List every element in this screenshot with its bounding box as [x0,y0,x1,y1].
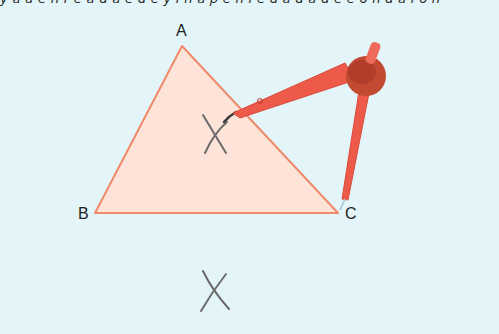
arc-mark-lower [201,271,229,311]
compass-needle-leg [342,85,370,200]
vertex-label-b: B [78,205,89,223]
compass-pencil-leg [233,63,355,118]
vertex-label-c: C [345,205,357,223]
triangle-abc [95,46,338,213]
vertex-label-a: A [176,22,187,40]
diagram-canvas [0,0,499,334]
